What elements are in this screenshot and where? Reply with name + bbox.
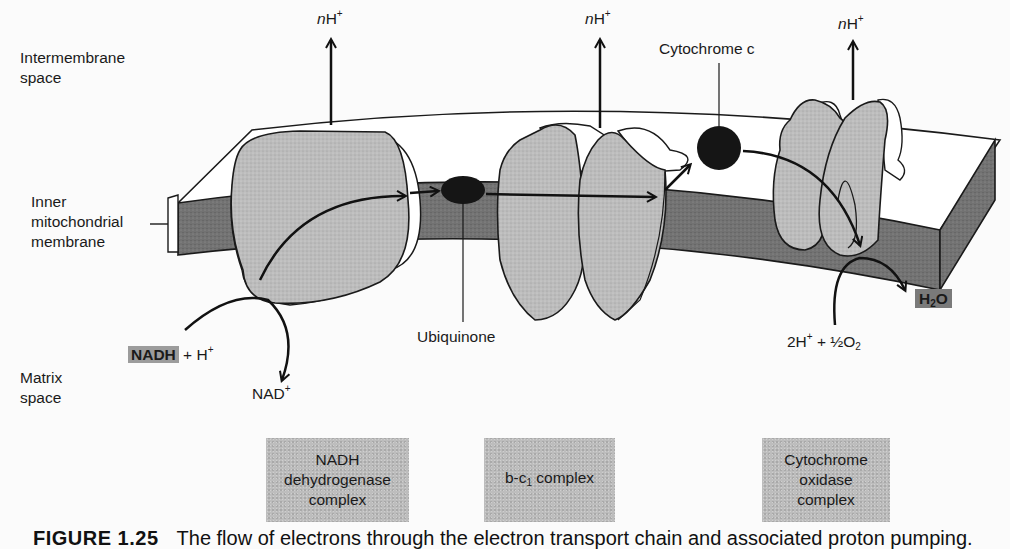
inner-membrane-label: Inner mitochondrial membrane — [31, 192, 123, 252]
label-line: membrane — [31, 233, 105, 250]
proton-label-3: nH+ — [838, 14, 864, 34]
nad-text: NAD — [252, 385, 285, 402]
box-line: complex — [784, 490, 868, 510]
ubiquinone-label: Ubiquinone — [417, 327, 495, 347]
oxygen-reactant-label: 2H+ + ½O2 — [787, 332, 861, 352]
oxygen-text: + ½O — [813, 333, 856, 350]
nadh-dehydrogenase-box: NADH dehydrogenase complex — [266, 438, 409, 522]
label-line: space — [20, 69, 61, 86]
figure-caption: FIGURE 1.25The flow of electrons through… — [33, 527, 973, 549]
water-o: O — [936, 290, 948, 307]
box-line: complex — [284, 490, 391, 510]
proton-charge: + — [858, 13, 864, 24]
box-line: oxidase — [784, 470, 868, 490]
box-line: NADH — [284, 450, 391, 470]
label-line: Matrix — [20, 369, 62, 386]
proton-label-1: nH+ — [317, 9, 343, 29]
proton-charge: + — [605, 8, 611, 19]
proton-label-2: nH+ — [585, 9, 611, 29]
matrix-space-label: Matrix space — [20, 368, 62, 408]
nadh-reactant-label: NADH + H+ — [128, 345, 214, 365]
cytochrome-oxidase-box: Cytochrome oxidase complex — [762, 438, 890, 522]
box-rest: complex — [532, 469, 594, 486]
nadh-oxidation-arrow — [185, 298, 288, 380]
charge: + — [285, 383, 291, 394]
label-line: mitochondrial — [31, 213, 123, 230]
proton-ion: H — [594, 10, 605, 27]
proton-n: n — [317, 10, 326, 27]
proton-ion: H — [847, 15, 858, 32]
bc1-complex-box: b-c1 complex — [484, 438, 615, 522]
box-line: Cytochrome — [784, 450, 868, 470]
proton-n: n — [585, 10, 594, 27]
bc1-complex-protein — [498, 123, 689, 320]
caption-text: The flow of electrons through the electr… — [177, 527, 973, 549]
nadh-highlight: NADH — [128, 346, 179, 363]
protons-text: 2H — [787, 333, 807, 350]
ubiquinone-carrier — [441, 176, 485, 204]
intermembrane-space-label: Intermembrane space — [20, 48, 125, 88]
caption-label: FIGURE 1.25 — [33, 527, 159, 549]
cytochrome-c-label: Cytochrome c — [659, 39, 755, 59]
proton-charge: + — [337, 8, 343, 19]
nadh-plus-h: + H — [183, 346, 208, 363]
cytochrome-c-carrier — [697, 126, 741, 170]
proton-n: n — [838, 15, 847, 32]
water-product-label: H2O — [915, 289, 952, 309]
box-line: dehydrogenase — [284, 470, 391, 490]
charge: + — [208, 344, 214, 355]
water-h: H — [919, 290, 930, 307]
box-main: b-c — [505, 469, 527, 486]
nad-product-label: NAD+ — [252, 384, 291, 404]
oxygen-sub: 2 — [855, 341, 861, 352]
proton-ion: H — [326, 10, 337, 27]
label-line: Intermembrane — [20, 49, 125, 66]
label-line: Inner — [31, 193, 66, 210]
label-line: space — [20, 389, 61, 406]
